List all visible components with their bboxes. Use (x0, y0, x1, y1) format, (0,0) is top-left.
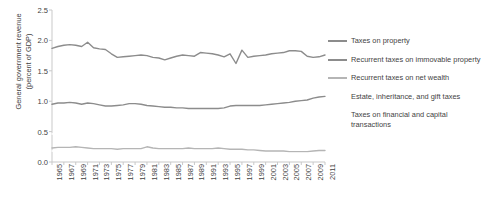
y-tick-label: 2.5 (22, 6, 48, 15)
x-tick-label: 1983 (162, 164, 171, 180)
y-tick-label: 1.5 (22, 66, 48, 75)
legend-swatch-icon (328, 40, 347, 42)
x-tick-label: 1993 (221, 164, 230, 180)
x-tick-label: 1975 (114, 164, 123, 180)
series-line (52, 129, 325, 142)
legend-label: Taxes on property (351, 36, 410, 46)
x-tick-label: 1997 (245, 164, 254, 180)
legend-item[interactable]: Estate, inheritance, and gift taxes (328, 92, 486, 102)
x-tick-label: 1969 (79, 164, 88, 180)
series-line (52, 42, 325, 63)
y-tick-label: 0.5 (22, 127, 48, 136)
x-tick-label: 1971 (91, 164, 100, 180)
legend-swatch-icon (328, 59, 347, 61)
x-tick-label: 2003 (281, 164, 290, 180)
x-tick-label: 2011 (328, 164, 337, 180)
x-tick-label: 1999 (257, 164, 266, 180)
chart-container: General government revenue (percent of G… (0, 0, 486, 209)
legend-item[interactable]: Taxes on financial and capital transacti… (328, 110, 486, 129)
legend-label: Estate, inheritance, and gift taxes (351, 92, 460, 102)
legend-swatch-icon (328, 114, 347, 116)
x-tick-label: 1967 (67, 164, 76, 180)
x-tick-label: 2009 (316, 164, 325, 180)
legend-item[interactable]: Taxes on property (328, 36, 486, 46)
legend-label: Recurrent taxes on net wealth (351, 73, 449, 83)
x-tick-label: 2007 (304, 164, 313, 180)
x-tick-label: 1985 (174, 164, 183, 180)
legend-item[interactable]: Recurrent taxes on immovable property (328, 55, 486, 65)
legend-swatch-icon (328, 96, 347, 98)
x-tick-label: 1979 (138, 164, 147, 180)
series-canvas (52, 10, 325, 162)
y-tick-label: 1.0 (22, 97, 48, 106)
x-tick-label: 1981 (150, 164, 159, 180)
x-tick-label: 1965 (55, 164, 64, 180)
y-tick-label: 0.0 (22, 158, 48, 167)
chart-legend: Taxes on propertyRecurrent taxes on immo… (328, 36, 486, 138)
legend-swatch-icon (328, 77, 347, 79)
legend-label: Taxes on financial and capital transacti… (351, 110, 486, 129)
y-axis-tick-labels: 0.00.51.01.52.02.5 (20, 0, 48, 209)
x-tick-label: 2005 (292, 164, 301, 180)
x-tick-label: 1995 (233, 164, 242, 180)
x-tick-label: 1989 (197, 164, 206, 180)
series-line (52, 96, 325, 108)
x-tick-label: 1991 (209, 164, 218, 180)
legend-label: Recurrent taxes on immovable property (351, 55, 480, 65)
y-tick-label: 2.0 (22, 36, 48, 45)
legend-item[interactable]: Recurrent taxes on net wealth (328, 73, 486, 83)
x-tick-label: 1973 (102, 164, 111, 180)
x-tick-label: 1987 (186, 164, 195, 180)
plot-area (52, 10, 325, 162)
x-axis-tick-labels: 1965196719691971197319751977197919811983… (52, 164, 325, 209)
x-tick-label: 2001 (269, 164, 278, 180)
x-tick-label: 1977 (126, 164, 135, 180)
